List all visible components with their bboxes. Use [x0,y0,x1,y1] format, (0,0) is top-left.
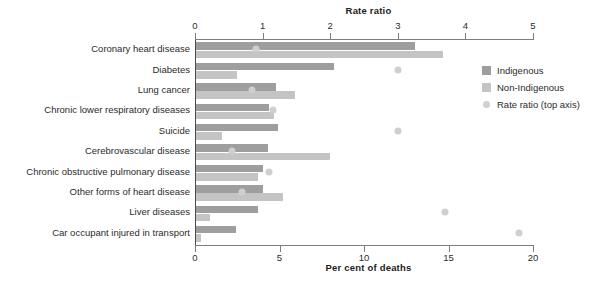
bar-indigenous [196,83,276,91]
bar-non-indigenous [196,71,237,79]
bottom-axis-tick-label: 15 [443,252,454,263]
rate-ratio-dot [394,66,401,73]
category-label: Other forms of heart disease [0,186,190,197]
top-axis-tick [398,33,399,39]
rate-ratio-dot [266,168,273,175]
bar-indigenous [196,42,415,50]
category-label: Car occupant injured in transport [0,227,190,238]
bar-non-indigenous [196,112,274,120]
category-label: Chronic lower respiratory diseases [0,104,190,115]
rate-ratio-dot [239,189,246,196]
category-label: Liver diseases [0,206,190,217]
top-axis-tick-label: 1 [260,20,265,31]
top-axis-tick-label: 5 [530,20,535,31]
rate-ratio-dot [229,148,236,155]
bar-indigenous [196,226,236,234]
bottom-axis-title: Per cent of deaths [0,262,602,273]
legend-label: Rate ratio (top axis) [497,99,580,110]
category-label: Diabetes [0,64,190,75]
top-axis-line [195,39,534,40]
bottom-axis-tick-label: 5 [277,252,282,263]
rate-ratio-dot [249,87,256,94]
bar-non-indigenous [196,173,258,181]
bar-non-indigenous [196,234,201,242]
legend-item: Rate ratio (top axis) [482,96,600,113]
top-axis-title: Rate ratio [0,5,602,16]
legend-item: Non-Indigenous [482,79,600,96]
rate-ratio-dot [516,229,523,236]
bar-non-indigenous [196,132,222,140]
category-label: Suicide [0,125,190,136]
top-axis-tick-label: 3 [395,20,400,31]
bottom-axis-tick-label: 0 [192,252,197,263]
legend-square-icon [482,66,491,75]
bar-non-indigenous [196,153,330,161]
top-axis-tick [195,33,196,39]
bar-non-indigenous [196,214,210,222]
chart-legend: IndigenousNon-IndigenousRate ratio (top … [482,62,600,113]
bar-non-indigenous [196,51,443,59]
bar-indigenous [196,165,263,173]
top-axis-tick-label: 4 [463,20,468,31]
rate-ratio-dot [442,209,449,216]
bottom-axis-tick-label: 10 [359,252,370,263]
top-axis-tick-label: 0 [192,20,197,31]
category-label: Coronary heart disease [0,43,190,54]
rate-ratio-dot [269,107,276,114]
top-axis-tick-label: 2 [328,20,333,31]
bar-indigenous [196,185,263,193]
legend-item: Indigenous [482,62,600,79]
legend-label: Indigenous [497,65,543,76]
bar-indigenous [196,206,258,214]
legend-circle-icon [483,101,490,108]
rate-ratio-dot [252,46,259,53]
bar-indigenous [196,124,278,132]
bottom-axis-tick-label: 20 [528,252,539,263]
bar-non-indigenous [196,91,295,99]
legend-label: Non-Indigenous [497,82,564,93]
rate-ratio-dot [394,127,401,134]
top-axis-tick [263,33,264,39]
category-label: Chronic obstructive pulmonary disease [0,166,190,177]
category-label: Cerebrovascular disease [0,145,190,156]
rate-ratio-chart: Rate ratio Per cent of deaths 012345 051… [0,0,602,281]
top-axis-tick [533,33,534,39]
bar-indigenous [196,104,269,112]
top-axis-tick [465,33,466,39]
legend-square-icon [482,83,491,92]
top-axis-tick [330,33,331,39]
bar-indigenous [196,63,334,71]
category-label: Lung cancer [0,84,190,95]
